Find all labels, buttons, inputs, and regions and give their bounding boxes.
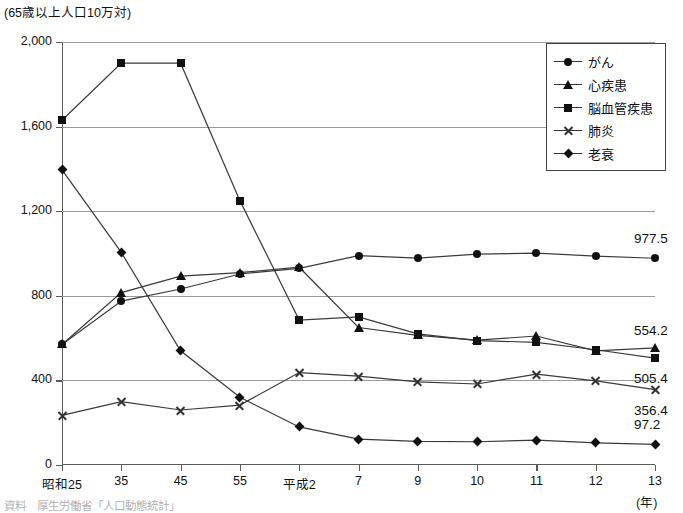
legend: がん 心疾患 脳血管疾患 肺炎 老衰 — [546, 43, 666, 171]
y-tick-label: 1,200 — [0, 203, 52, 217]
gridline — [62, 296, 655, 297]
diamond-marker-icon — [553, 147, 583, 161]
square-marker — [177, 59, 185, 67]
square-marker-icon — [553, 101, 583, 115]
square-marker — [355, 313, 363, 321]
square-marker — [295, 316, 303, 324]
y-tick-label: 800 — [0, 288, 52, 302]
legend-label: 老衰 — [588, 144, 614, 163]
x-tick-mark — [596, 465, 597, 471]
x-tick-mark — [655, 465, 656, 471]
y-tick-mark — [56, 42, 62, 43]
legend-item-rousui[interactable]: 老衰 — [553, 142, 665, 165]
x-marker — [353, 371, 364, 382]
triangle-marker — [354, 323, 364, 332]
circle-marker-icon — [553, 55, 583, 69]
x-tick-label: 12 — [589, 474, 603, 488]
square-marker — [592, 346, 600, 354]
triangle-marker — [176, 271, 186, 280]
square-marker — [117, 59, 125, 67]
y-tick-label: 1,600 — [0, 119, 52, 133]
circle-marker — [355, 252, 363, 260]
x-tick-label: 55 — [233, 474, 247, 488]
y-tick-label: 0 — [0, 457, 52, 471]
x-tick-mark — [121, 465, 122, 471]
x-marker — [175, 405, 186, 416]
x-marker — [57, 410, 68, 421]
square-marker — [414, 330, 422, 338]
x-marker — [590, 375, 601, 386]
x-tick-label: 平成2 — [283, 474, 316, 493]
legend-item-gan[interactable]: がん — [553, 50, 665, 73]
triangle-marker — [235, 268, 245, 277]
y-tick-mark — [56, 211, 62, 212]
x-tick-label: 11 — [530, 474, 543, 488]
x-marker-icon — [553, 124, 583, 138]
circle-marker — [177, 285, 185, 293]
triangle-marker — [650, 343, 660, 352]
circle-marker — [592, 252, 600, 260]
x-tick-label: 35 — [114, 474, 128, 488]
x-tick-label: 昭和25 — [42, 474, 82, 493]
source-footnote: 資料 厚生労働省「人口動態統計」 — [4, 497, 180, 513]
x-marker — [472, 378, 483, 389]
x-marker — [294, 367, 305, 378]
legend-item-noukekkan[interactable]: 脳血管疾患 — [553, 96, 665, 119]
x-tick-mark — [62, 465, 63, 471]
y-tick-mark — [56, 127, 62, 128]
legend-item-shinshikkan[interactable]: 心疾患 — [553, 73, 665, 96]
y-tick-mark — [56, 380, 62, 381]
x-marker — [531, 369, 542, 380]
x-tick-label: 7 — [355, 474, 362, 488]
x-tick-label: 9 — [414, 474, 421, 488]
legend-label: がん — [588, 52, 614, 71]
x-marker — [116, 396, 127, 407]
circle-marker — [651, 254, 659, 262]
triangle-marker — [57, 339, 67, 348]
end-value-label: 977.5 — [634, 231, 668, 246]
triangle-marker — [116, 288, 126, 297]
end-value-label: 554.2 — [634, 323, 668, 338]
x-tick-mark — [240, 465, 241, 471]
y-tick-mark — [56, 296, 62, 297]
y-tick-label: 2,000 — [0, 34, 52, 48]
triangle-marker-icon — [553, 78, 583, 92]
x-tick-mark — [418, 465, 419, 471]
end-value-label: 356.4 — [634, 403, 668, 418]
x-tick-mark — [359, 465, 360, 471]
square-marker — [236, 197, 244, 205]
end-value-label: 505.4 — [634, 371, 668, 386]
x-tick-mark — [299, 465, 300, 471]
circle-marker — [414, 254, 422, 262]
legend-label: 脳血管疾患 — [588, 98, 653, 117]
x-tick-label: 45 — [174, 474, 188, 488]
triangle-marker — [294, 262, 304, 271]
legend-item-haien[interactable]: 肺炎 — [553, 119, 665, 142]
x-tick-mark — [477, 465, 478, 471]
end-value-label: 97.2 — [634, 417, 660, 432]
y-axis-unit-caption: (65歳以上人口10万対) — [4, 2, 131, 21]
square-marker — [651, 354, 659, 362]
square-marker — [532, 338, 540, 346]
x-tick-mark — [536, 465, 537, 471]
x-tick-mark — [181, 465, 182, 471]
x-tick-label: 13 — [648, 474, 662, 488]
square-marker — [473, 337, 481, 345]
gridline — [62, 211, 655, 212]
legend-label: 肺炎 — [588, 121, 614, 140]
x-marker — [412, 376, 423, 387]
y-tick-label: 400 — [0, 372, 52, 386]
x-axis-unit-label: (年) — [636, 492, 657, 511]
x-tick-label: 10 — [470, 474, 484, 488]
legend-label: 心疾患 — [588, 75, 627, 94]
square-marker — [58, 116, 66, 124]
